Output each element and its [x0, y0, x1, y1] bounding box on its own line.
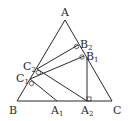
label-b2: B2 [80, 38, 93, 52]
right-angle-marker-c1 [29, 81, 33, 85]
label-b1: B1 [86, 50, 99, 64]
segment-c1-a1 [30, 79, 57, 101]
label-c1: C1 [16, 72, 29, 86]
label-a1: A1 [50, 104, 63, 118]
segment-c2-a2 [37, 69, 87, 101]
label-a: A [60, 6, 70, 19]
right-angle-marker-c2 [36, 70, 40, 74]
label-a2: A2 [80, 104, 93, 118]
segment-c1-b1 [30, 56, 84, 79]
triangle-diagram: A B C A1 A2 B1 B2 C1 C2 [0, 0, 130, 121]
right-angle-marker-a2 [87, 97, 91, 101]
label-c: C [113, 104, 121, 117]
label-b: B [9, 104, 17, 117]
label-c2: C2 [23, 60, 36, 74]
